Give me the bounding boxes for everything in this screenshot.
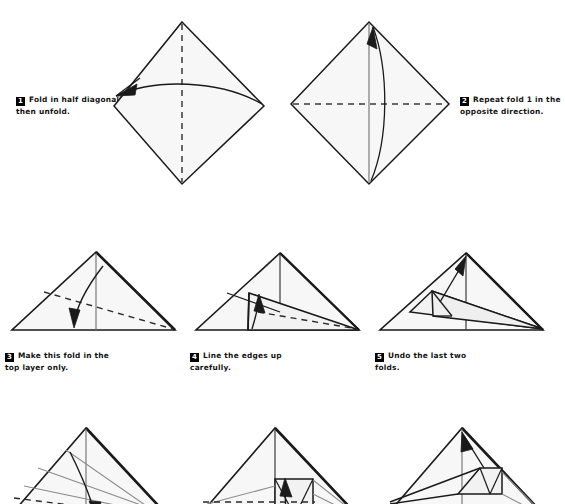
step-5-badge: 5: [375, 353, 384, 362]
step-5-caption: 5Undo the last two folds.: [375, 350, 490, 374]
step-3-badge: 3: [5, 353, 14, 362]
step-2-badge: 2: [460, 97, 469, 106]
step-2-text: Repeat fold 1 in the opposite direction.: [460, 95, 561, 116]
step-6-figure: [8, 424, 180, 504]
step-3-caption: 3Make this fold in the top layer only.: [5, 350, 120, 374]
step-3-text: Make this fold in the top layer only.: [5, 351, 109, 372]
step-2-figure: [285, 18, 455, 188]
paper-triangle: [12, 252, 175, 330]
paper-diamond: [291, 22, 449, 184]
step-2-caption: 2Repeat fold 1 in the opposite direction…: [460, 94, 565, 118]
step-8-figure: [380, 424, 552, 504]
paper-diamond: [114, 22, 264, 184]
step-5-figure: [376, 250, 548, 340]
flap-left-edge: [248, 293, 249, 330]
step-4-figure: [192, 250, 364, 340]
step-1-badge: 1: [16, 97, 25, 106]
step-4-badge: 4: [190, 353, 199, 362]
step-4-text: Line the edges up carefully.: [190, 351, 282, 372]
step-7-figure: [195, 424, 367, 504]
step-5-text: Undo the last two folds.: [375, 351, 466, 372]
step-1-figure: [110, 18, 275, 188]
step-4-caption: 4Line the edges up carefully.: [190, 350, 305, 374]
step-3-figure: [8, 248, 180, 338]
